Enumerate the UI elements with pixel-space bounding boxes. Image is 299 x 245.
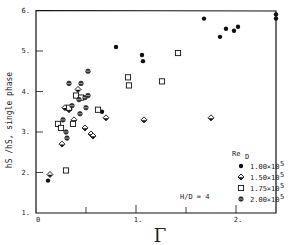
filled-circle-marker [46, 178, 50, 182]
crossed-circle-marker [67, 81, 72, 86]
diamond-marker [59, 141, 65, 147]
crossed-circle-marker [64, 130, 69, 135]
diamond-marker [238, 174, 244, 180]
diamond-marker [141, 117, 147, 123]
plot-frame [36, 11, 276, 214]
legend-item-exponent: 5 [280, 160, 284, 168]
open-square-marker [95, 107, 100, 112]
filled-circle-marker [274, 16, 278, 20]
filled-circle-marker [140, 53, 144, 57]
y-tick-label: 4. [22, 88, 30, 96]
legend-item-exponent: 5 [280, 193, 284, 201]
crossed-circle-marker [239, 197, 244, 202]
legend-title: Re [232, 150, 240, 158]
y-tick-label: 6. [22, 7, 30, 15]
axes-box [36, 11, 276, 214]
y-axis: 1.2.3.4.5.6. [22, 7, 43, 218]
legend-item-label: 1.50×10 [250, 174, 280, 182]
open-square-marker [58, 125, 63, 130]
x-tick-label: 1. [134, 216, 142, 224]
legend-item-label: 2.00×10 [250, 196, 280, 204]
diamond-marker [82, 125, 88, 131]
crossed-circle-marker [77, 97, 82, 102]
filled-circle-marker [218, 35, 222, 39]
filled-circle-marker [141, 59, 145, 63]
crossed-circle-marker [70, 103, 75, 108]
legend-item-label: 1.75×10 [250, 185, 280, 193]
scatter-plot: 1.2.3.4.5.6. 01.2. hS /hS, single phase … [0, 0, 299, 245]
legend-title-subscript: D [245, 153, 249, 161]
y-tick-label: 2. [22, 169, 30, 177]
y-tick-label: 5. [22, 47, 30, 55]
y-tick-label: 1. [22, 209, 30, 217]
open-square-marker [70, 121, 75, 126]
open-square-marker [175, 50, 180, 55]
open-square-marker [125, 75, 130, 80]
open-square-marker [63, 168, 68, 173]
filled-circle-marker [202, 16, 206, 20]
diamond-marker [208, 115, 214, 121]
x-tick-label: 0 [36, 216, 40, 224]
legend-item-exponent: 5 [280, 182, 284, 190]
data-points [46, 12, 278, 182]
filled-circle-marker [224, 27, 228, 31]
y-axis-label: hS /hS, single phase [5, 72, 14, 169]
filled-circle-marker [114, 45, 118, 49]
filled-circle-marker [232, 29, 236, 33]
x-axis: 01.2. [36, 205, 242, 224]
legend-item-exponent: 5 [280, 171, 284, 179]
crossed-circle-marker [65, 136, 70, 141]
crossed-circle-marker [84, 105, 89, 110]
x-axis-label: Γ [154, 225, 167, 245]
diamond-marker [75, 86, 81, 92]
crossed-circle-marker [78, 111, 83, 116]
legend-item-label: 1.00×10 [250, 163, 280, 171]
crossed-circle-marker [61, 118, 66, 123]
annotation-h-d: H/D = 4 [180, 193, 210, 201]
diamond-marker [103, 115, 109, 121]
filled-circle-marker [236, 25, 240, 29]
crossed-circle-marker [86, 69, 91, 74]
crossed-circle-marker [86, 93, 91, 98]
diamond-marker [47, 172, 53, 178]
open-square-marker [126, 83, 131, 88]
y-tick-label: 3. [22, 128, 30, 136]
filled-circle-marker [274, 12, 278, 16]
open-square-marker [159, 79, 164, 84]
crossed-circle-marker [79, 81, 84, 86]
x-tick-label: 2. [234, 216, 242, 224]
open-square-marker [238, 185, 243, 190]
filled-circle-marker [239, 164, 243, 168]
